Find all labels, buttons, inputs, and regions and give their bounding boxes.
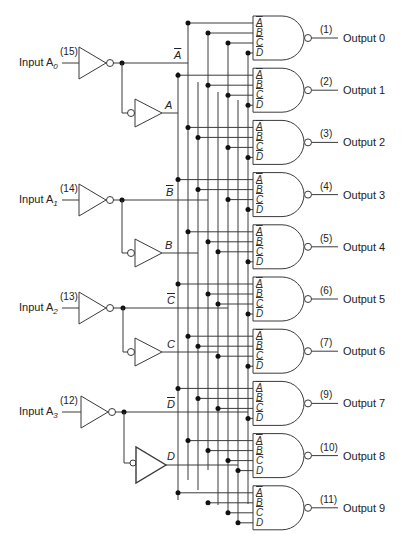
input-a1-pin: (14) [60,183,78,194]
gate-0-input-d: D [256,48,263,58]
signal-c: C [167,338,175,350]
output-2-label: Output 2 [343,136,385,148]
output-4-pin: (5) [320,233,332,244]
output-1-pin: (2) [320,76,332,87]
gate-4-input-d: D [256,257,263,267]
signal-b: B [165,239,172,251]
output-5-label: Output 5 [343,293,385,305]
output-6-label: Output 6 [343,345,385,357]
output-5-pin: (6) [320,285,332,296]
input-a1-label: Input A1 [19,193,58,208]
signal-b-bar: B [166,186,173,198]
gate-5-input-d: D [256,309,263,319]
bcd-decoder-diagram: Input A0 (15) Input A1 (14) Input A2 (13… [0,0,404,534]
output-0-pin: (1) [320,24,332,35]
gate-3-input-d: D [256,205,263,215]
gate-6-input-d: D [256,361,263,371]
output-7-pin: (9) [320,389,332,400]
output-3-pin: (4) [320,181,332,192]
output-6-pin: (7) [320,337,332,348]
gate-9-input-d: D [256,518,263,528]
output-9-pin: (11) [320,494,337,505]
signal-c-bar: C [167,294,175,306]
gate-1-input-d: D [256,100,263,110]
signal-d: D [167,450,175,462]
gate-2-input-d: D [256,152,263,162]
signal-a-bar: A [174,49,181,61]
output-8-label: Output 8 [343,450,385,462]
input-a0-pin: (15) [60,46,78,57]
output-1-label: Output 1 [343,84,385,96]
input-a3-label: Input A3 [19,405,58,420]
output-3-label: Output 3 [343,189,385,201]
signal-buses [178,24,248,525]
output-4-label: Output 4 [343,241,385,253]
output-0-label: Output 0 [343,32,385,44]
gate-7-input-d: D [256,413,263,423]
output-8-pin: (10) [320,442,338,453]
input-inverters [62,47,248,483]
input-a2-pin: (13) [60,291,78,302]
output-2-pin: (3) [320,128,332,139]
output-9-label: Output 9 [343,502,385,514]
input-a0-label: Input A0 [19,56,58,71]
input-a2-label: Input A2 [19,301,58,316]
input-a3-pin: (12) [60,395,78,406]
signal-a: A [165,99,172,111]
signal-d-bar: D [167,398,175,410]
output-7-label: Output 7 [343,397,385,409]
gate-8-input-d: D [256,466,263,476]
